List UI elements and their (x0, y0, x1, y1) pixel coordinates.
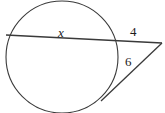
circle-shape (6, 1, 118, 113)
chord-length-label: x (58, 26, 64, 39)
secant-line (6, 35, 162, 43)
geometry-canvas (0, 0, 165, 113)
geometry-figure: x 4 6 (0, 0, 165, 113)
tangent-line (101, 43, 162, 101)
tangent-length-label: 6 (125, 55, 132, 68)
external-secant-length-label: 4 (130, 25, 137, 38)
